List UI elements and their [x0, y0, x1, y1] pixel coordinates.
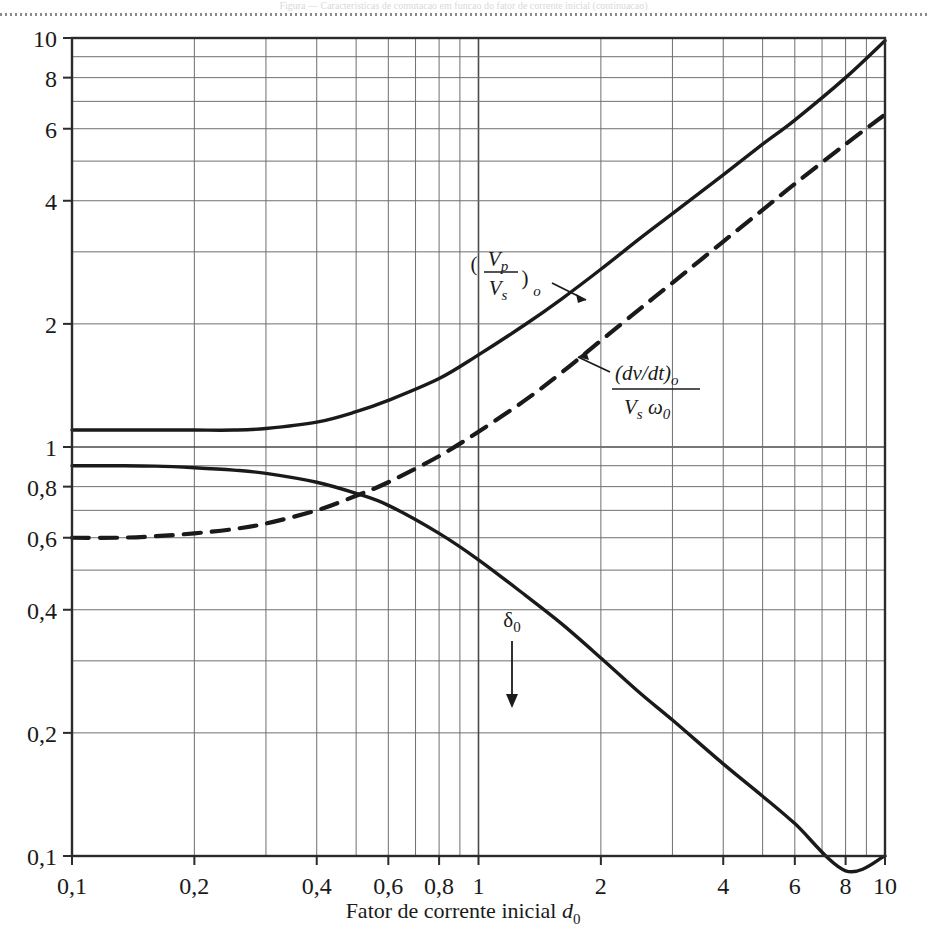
annotations-group: ( Vp Vs ) o (dv/dt)o Vs ω0 δ0	[471, 247, 701, 708]
y-tick-label: 2	[45, 312, 57, 338]
y-tick-label: 0,8	[27, 475, 57, 501]
x-tick-label: 0,2	[179, 873, 209, 899]
x-axis-title-prefix: Fator de corrente inicial	[346, 898, 562, 923]
x-tick-label: 10	[873, 873, 897, 899]
delta0-label: δ0	[503, 608, 520, 635]
vp-numerator: Vp	[488, 247, 509, 274]
vp-vs-left-paren: (	[471, 252, 478, 276]
tick-labels-group: 0,10,20,40,60,812468100,10,20,40,60,8124…	[27, 26, 897, 899]
x-axis-title-subscript: 0	[573, 911, 581, 927]
x-tick-label: 0,8	[424, 873, 454, 899]
y-tick-label: 0,2	[27, 721, 57, 747]
y-tick-label: 0,6	[27, 526, 57, 552]
x-axis-title: Fator de corrente inicial d0	[346, 898, 581, 927]
x-tick-label: 8	[840, 873, 852, 899]
dvdt-numerator: (dv/dt)o	[615, 361, 679, 388]
log-log-chart: 0,10,20,40,60,812468100,10,20,40,60,8124…	[0, 0, 927, 943]
y-tick-label: 1	[45, 435, 57, 461]
gridlines-group	[72, 38, 885, 856]
tick-marks-group	[63, 38, 885, 865]
x-tick-label: 6	[789, 873, 801, 899]
dvdt-denominator: Vs ω0	[624, 395, 671, 422]
y-tick-label: 0,4	[27, 598, 57, 624]
vp-vs-paren-subscript: o	[533, 283, 541, 299]
chart-figure: 0,10,20,40,60,812468100,10,20,40,60,8124…	[0, 0, 927, 943]
x-tick-label: 0,4	[302, 873, 332, 899]
x-tick-label: 4	[717, 873, 729, 899]
y-tick-label: 4	[45, 189, 57, 215]
dvdt-leader-line	[578, 357, 610, 372]
x-tick-label: 1	[473, 873, 485, 899]
vp-vs-right-paren: )	[522, 266, 529, 290]
x-tick-label: 0,6	[373, 873, 403, 899]
x-axis-title-group: Fator de corrente inicial d0	[346, 898, 581, 927]
x-tick-label: 2	[595, 873, 607, 899]
vs-denominator: Vs	[489, 276, 508, 303]
y-tick-label: 6	[45, 117, 57, 143]
y-tick-label: 8	[45, 66, 57, 92]
delta0-arrow-head	[506, 694, 518, 708]
dvdt-annotation: (dv/dt)o Vs ω0	[578, 351, 700, 422]
y-tick-label: 10	[33, 26, 57, 52]
x-tick-label: 0,1	[57, 873, 87, 899]
delta0-annotation: δ0	[503, 608, 520, 708]
y-tick-label: 0,1	[27, 844, 57, 870]
